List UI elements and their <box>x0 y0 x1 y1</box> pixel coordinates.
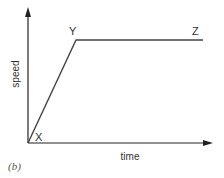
y-axis-arrowhead-icon <box>25 7 31 17</box>
speed-time-line <box>28 40 203 143</box>
y-axis-label: speed <box>10 60 21 87</box>
point-label-y: Y <box>69 25 77 37</box>
x-axis-label: time <box>121 151 140 162</box>
point-label-x: X <box>35 131 43 143</box>
x-axis-arrowhead-icon <box>203 140 213 146</box>
point-label-z: Z <box>192 25 199 37</box>
panel-label: (b) <box>8 160 21 173</box>
speed-time-graph: X Y Z speed time (b) <box>0 0 224 178</box>
